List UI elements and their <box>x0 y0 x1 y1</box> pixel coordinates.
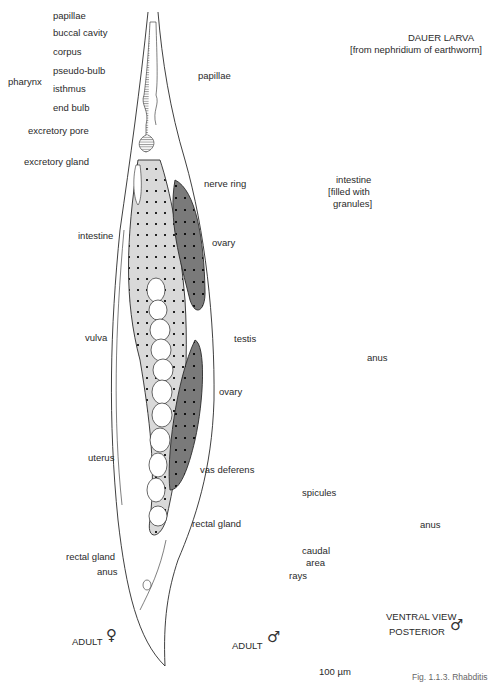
label-pharynx: pharynx <box>8 76 42 87</box>
label-excretory-gland: excretory gland <box>24 156 89 167</box>
label-papillae-male: papillae <box>198 70 231 81</box>
caption-posterior: POSTERIOR <box>389 626 445 637</box>
label-rectal-gland-male: rectal gland <box>192 518 241 529</box>
label-caudal: caudal <box>302 545 330 556</box>
label-vas-deferens: vas deferens <box>200 464 254 475</box>
caption-adult-female: ADULT <box>72 636 102 647</box>
label-ovary-lower: ovary <box>219 386 242 397</box>
label-testis: testis <box>234 333 256 344</box>
caption-ventral-view: VENTRAL VIEW <box>386 611 456 622</box>
male-symbol-ventral-icon: ♂ <box>450 620 463 631</box>
label-nerve-ring: nerve ring <box>204 178 246 189</box>
label-end-bulb: end bulb <box>53 102 89 113</box>
label-rectal-gland-female: rectal gland <box>66 551 115 562</box>
label-area: area <box>306 557 325 568</box>
label-anus-dauer: anus <box>367 352 388 363</box>
dauer-subtitle: [from nephridium of earthworm] <box>350 44 482 55</box>
dauer-title: DAUER LARVA <box>388 32 494 43</box>
label-anus-ventral: anus <box>420 519 441 530</box>
female-worm <box>111 12 214 666</box>
label-intestine-dauer: intestine <box>336 174 371 185</box>
label-spicules: spicules <box>302 487 336 498</box>
label-intestine-female: intestine <box>78 230 113 241</box>
scale-bar-label: 100 µm <box>319 666 351 677</box>
label-filled-with: [filled with <box>328 186 370 197</box>
figure-caption-fragment: Fig. 1.1.3. Rhabditis <box>412 672 488 683</box>
label-rays: rays <box>289 570 307 581</box>
label-excretory-pore: excretory pore <box>28 125 89 136</box>
label-anus-female: anus <box>97 566 118 577</box>
label-vulva: vulva <box>85 332 107 343</box>
male-symbol-icon: ♂ <box>267 632 280 643</box>
female-symbol-icon: ♀ <box>106 630 117 641</box>
label-buccal-cavity: buccal cavity <box>53 27 107 38</box>
label-uterus: uterus <box>88 452 114 463</box>
caption-adult-male: ADULT <box>232 640 262 651</box>
label-isthmus: isthmus <box>53 83 86 94</box>
label-ovary-upper: ovary <box>212 237 235 248</box>
label-corpus: corpus <box>53 46 82 57</box>
label-granules: granules] <box>333 198 372 209</box>
label-papillae-female: papillae <box>53 10 86 21</box>
label-pseudo-bulb: pseudo-bulb <box>53 65 105 76</box>
